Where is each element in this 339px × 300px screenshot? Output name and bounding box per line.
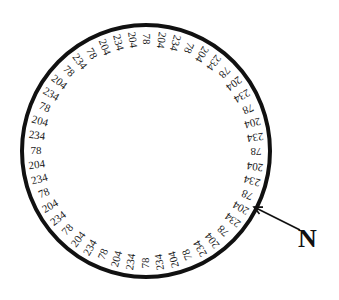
ring-label: 204 — [126, 31, 140, 49]
ring-label: 78 — [239, 187, 254, 202]
ring-label: 204 — [31, 113, 51, 129]
ring-label: 204 — [108, 249, 124, 269]
ring-label: 234 — [242, 173, 262, 189]
ring-label: 234 — [123, 252, 137, 270]
ring-labels: 7820423478204234782042347820423478204234… — [28, 31, 265, 271]
ring-label: 234 — [30, 171, 50, 187]
ring-label: 234 — [152, 253, 166, 271]
diagram-canvas: 7820423478204234782042347820423478204234… — [0, 0, 339, 300]
ring-label: 78 — [179, 247, 194, 262]
ring-label: 234 — [28, 128, 46, 142]
ring-label: 204 — [243, 115, 263, 131]
ring-label: 234 — [246, 131, 264, 145]
ring-label: 78 — [240, 102, 255, 117]
ring-label: 78 — [38, 99, 53, 114]
ring-label: 78 — [95, 246, 110, 261]
ring-label: 234 — [168, 34, 184, 54]
north-arrow-line — [254, 207, 300, 230]
ring-label: 78 — [139, 257, 151, 269]
ring-label: 204 — [28, 157, 46, 171]
ring-label: 204 — [155, 31, 169, 49]
outer-ring — [22, 25, 270, 277]
ring-label: 78 — [182, 41, 197, 56]
north-label: N — [298, 224, 317, 253]
ring-label: 78 — [141, 34, 153, 46]
north-marker: N — [254, 207, 317, 253]
ring-label: 78 — [36, 185, 51, 200]
ring-diagram: 7820423478204234782042347820423478204234… — [0, 0, 339, 300]
ring-label: 78 — [31, 144, 43, 156]
ring-label: 78 — [250, 146, 262, 158]
ring-label: 204 — [245, 160, 263, 174]
